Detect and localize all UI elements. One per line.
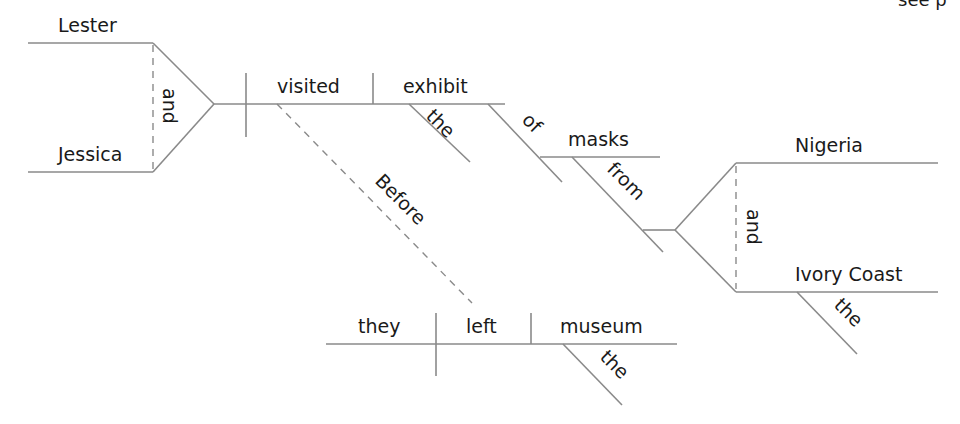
word-the-museum: the bbox=[596, 345, 634, 383]
word-exhibit: exhibit bbox=[403, 75, 468, 97]
word-ivory-coast: Ivory Coast bbox=[795, 263, 902, 285]
corner-fragment-text: see p bbox=[898, 0, 947, 10]
word-visited: visited bbox=[277, 75, 340, 97]
word-left: left bbox=[466, 315, 497, 337]
word-the-exhibit: the bbox=[422, 104, 460, 142]
word-lester: Lester bbox=[58, 14, 117, 36]
word-museum: museum bbox=[560, 315, 643, 337]
word-masks: masks bbox=[568, 128, 629, 150]
compound-subject: Lester Jessica and bbox=[28, 14, 214, 172]
sentence-diagram: see p Lester Jessica and visited exhibit… bbox=[0, 0, 960, 424]
word-and-objects: and bbox=[743, 209, 765, 245]
word-they: they bbox=[358, 315, 400, 337]
prep-phrase-of: of masks bbox=[488, 104, 660, 182]
word-and-subject: and bbox=[159, 88, 181, 124]
word-nigeria: Nigeria bbox=[795, 134, 863, 156]
main-clause: visited exhibit the bbox=[214, 73, 505, 162]
subordinate-clause: they left museum the bbox=[326, 313, 677, 405]
word-before: Before bbox=[371, 169, 430, 228]
word-of: of bbox=[518, 108, 547, 137]
fork-upper-nigeria bbox=[675, 163, 736, 230]
word-jessica: Jessica bbox=[57, 143, 122, 165]
fork-lower-ivory-coast bbox=[675, 230, 736, 292]
word-the-ivory-coast: the bbox=[830, 293, 868, 331]
